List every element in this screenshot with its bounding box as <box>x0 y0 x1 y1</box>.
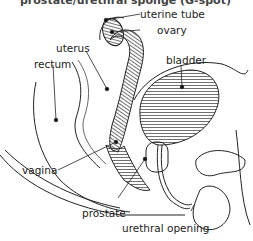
urethra <box>157 145 190 209</box>
bladder-shape <box>140 70 219 145</box>
label-vagina: vagina <box>22 164 57 176</box>
label-urethral-opening: urethral opening <box>122 222 209 234</box>
label-ovary: ovary <box>157 24 187 36</box>
label-bladder: bladder <box>166 54 206 66</box>
label-rectum: rectum <box>34 58 71 70</box>
label-uterine-tube: uterine tube <box>140 8 205 20</box>
label-uterus: uterus <box>56 42 90 54</box>
label-prostate: prostate <box>82 207 126 219</box>
anatomy-diagram <box>0 0 253 241</box>
uterus-shape <box>110 30 144 152</box>
